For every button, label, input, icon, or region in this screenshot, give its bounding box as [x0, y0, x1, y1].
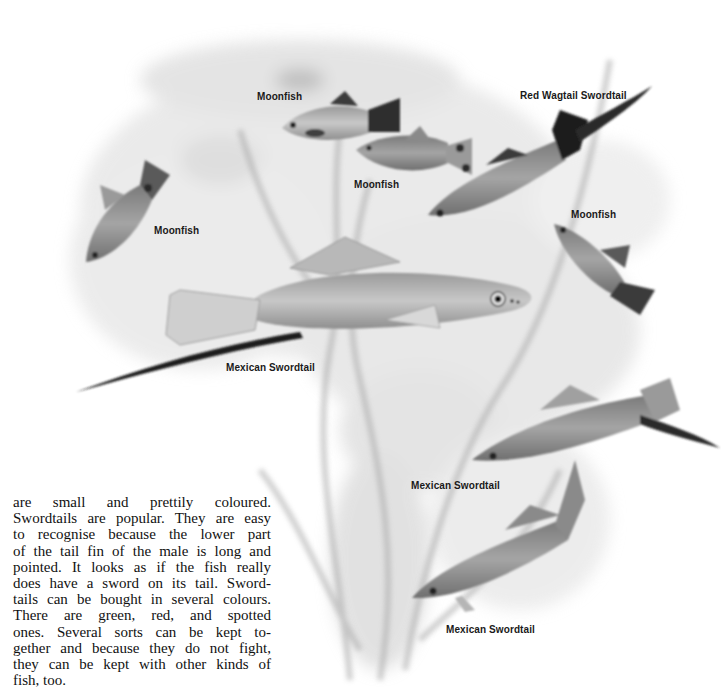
label-mexican-swordtail-large: Mexican Swordtail — [226, 362, 315, 373]
body-paragraph: are small and prettily coloured. Swordta… — [13, 494, 271, 688]
body-line: ones. Several sorts can be kept to- — [13, 624, 271, 640]
body-line: to recognise because the lower part — [13, 526, 271, 542]
body-line: Swordtails are popular. They are easy — [13, 510, 271, 526]
body-line: gether and because they do not fight, — [13, 640, 271, 656]
label-moonfish-middle: Moonfish — [354, 179, 399, 190]
label-mexican-swordtail-right: Mexican Swordtail — [411, 480, 500, 491]
body-line: they can be kept with other kinds of — [13, 656, 271, 672]
body-line: does have a sword on its tail. Sword- — [13, 575, 271, 591]
label-moonfish-top: Moonfish — [257, 91, 302, 102]
body-line: of the tail fin of the male is long and — [13, 543, 271, 559]
label-red-wagtail-swordtail: Red Wagtail Swordtail — [520, 90, 627, 101]
book-page: Moonfish Red Wagtail Swordtail Moonfish … — [0, 0, 721, 689]
body-line: tails can be bought in several colours. — [13, 591, 271, 607]
body-line: fish, too. — [13, 672, 271, 688]
body-line: There are green, red, and spotted — [13, 607, 271, 623]
label-moonfish-left: Moonfish — [154, 225, 199, 236]
body-line: pointed. It looks as if the fish really — [13, 559, 271, 575]
label-moonfish-right: Moonfish — [571, 209, 616, 220]
label-mexican-swordtail-bottom: Mexican Swordtail — [446, 624, 535, 635]
body-line: are small and prettily coloured. — [13, 494, 271, 510]
